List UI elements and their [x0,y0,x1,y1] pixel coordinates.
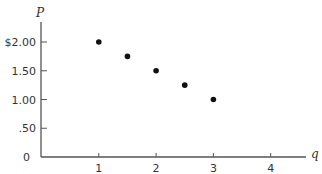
price-quantity-scatter-chart: P q 0 .501.001.50$2.00 1234 [0,0,322,174]
y-tick-label: .50 [19,122,37,135]
data-point [125,54,131,60]
y-tick-label: 1.00 [12,94,37,107]
x-tick-label: 2 [153,162,160,174]
data-points [96,39,216,102]
x-tick-label: 3 [210,162,217,174]
x-tick-label: 1 [95,162,102,174]
axes: P q 0 [23,6,319,164]
x-ticks: 1234 [95,153,274,174]
y-axis-label: P [35,6,45,20]
origin-label: 0 [23,151,30,164]
x-axis-label: q [311,147,319,161]
data-point [211,97,217,103]
x-tick-label: 4 [267,162,274,174]
data-point [182,82,188,88]
data-point [96,39,102,45]
data-point [153,68,159,74]
y-tick-label: $2.00 [5,36,37,49]
y-tick-label: 1.50 [12,65,37,78]
